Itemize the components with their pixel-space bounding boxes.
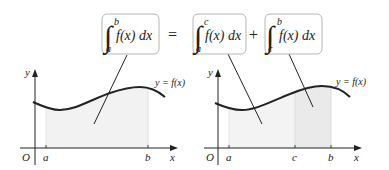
right-origin-label: O — [206, 151, 214, 163]
left-x-axis-label: x — [169, 151, 175, 163]
right-shaded-area-c-b — [295, 86, 331, 148]
right-x-axis-label: x — [353, 151, 359, 163]
rhs2-lower-limit: c — [268, 43, 273, 54]
rhs1-integral-box: ∫ c a f(x) dx — [192, 14, 246, 56]
plus-sign: + — [249, 26, 258, 43]
right-y-axis-arrow-icon — [215, 69, 221, 77]
rhs1-upper-limit: c — [204, 16, 209, 27]
rhs2-integrand: f(x) dx — [279, 28, 316, 44]
lhs-integrand: f(x) dx — [116, 28, 153, 44]
left-graph: O a b x y y = f(x) — [20, 66, 186, 165]
right-y-axis-label: y — [207, 66, 213, 78]
left-y-axis-arrow-icon — [32, 69, 38, 77]
rhs1-lower-limit: a — [196, 43, 201, 54]
right-graph: O a c b x y y = f(x) — [204, 66, 367, 165]
left-origin-label: O — [22, 151, 30, 163]
lhs-integral-box: ∫ b a f(x) dx — [102, 14, 159, 56]
right-tick-c-label: c — [292, 151, 297, 163]
right-tick-b-label: b — [328, 151, 334, 163]
left-tick-a-label: a — [43, 151, 49, 163]
right-shaded-area-a-c — [229, 93, 295, 148]
rhs2-integral-box: ∫ b c f(x) dx — [264, 14, 322, 56]
right-tick-a-label: a — [226, 151, 232, 163]
rhs1-integrand: f(x) dx — [205, 28, 242, 44]
left-tick-b-label: b — [145, 151, 151, 163]
lhs-lower-limit: a — [106, 43, 111, 54]
left-curve-label: y = f(x) — [154, 77, 186, 89]
integral-additivity-diagram: O a b x y y = f(x) O a c b x y y = f(x) — [0, 0, 389, 170]
left-y-axis-label: y — [24, 66, 30, 78]
right-curve-label: y = f(x) — [335, 76, 367, 88]
equals-sign: = — [168, 26, 177, 43]
rhs2-upper-limit: b — [277, 16, 282, 27]
lhs-upper-limit: b — [114, 16, 119, 27]
